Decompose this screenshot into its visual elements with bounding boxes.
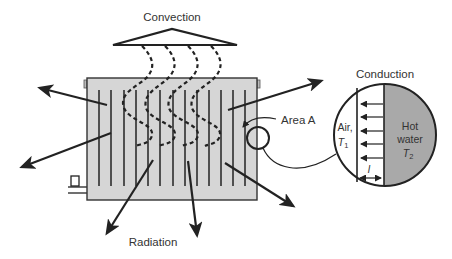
air-label: Air, <box>337 121 352 133</box>
conduction-label: Conduction <box>356 68 414 80</box>
radiator <box>84 78 260 200</box>
radiation-label: Radiation <box>129 236 178 248</box>
heat-transfer-diagram: Convection <box>0 0 452 259</box>
hot-water-label-line1: Hot <box>402 120 418 132</box>
conduction-detail: l Air, T1 Hot water T2 <box>334 80 444 192</box>
hot-water-label-line2: water <box>396 133 423 145</box>
zoom-connector-curve <box>263 148 336 168</box>
area-label: Area A <box>281 114 316 126</box>
convection-hood-icon <box>113 29 237 45</box>
convection-label: Convection <box>143 11 201 23</box>
radiator-valve-icon <box>68 176 88 193</box>
